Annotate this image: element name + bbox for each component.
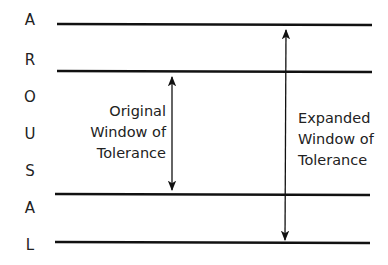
expanded-upper-line [57,24,372,25]
original-upper-line [57,71,372,72]
original-window-line3: Tolerance [56,143,166,164]
expanded-window-arrow [285,30,286,240]
expanded-window-line3: Tolerance [298,150,388,171]
original-window-line2: Window of [56,122,166,143]
original-window-label: Original Window of Tolerance [56,101,166,164]
expanded-window-line1: Expanded [298,108,388,129]
expanded-lower-line [55,242,370,243]
original-lower-line [55,194,370,195]
original-window-line1: Original [56,101,166,122]
expanded-window-line2: Window of [298,129,388,150]
expanded-window-label: Expanded Window of Tolerance [298,108,388,171]
